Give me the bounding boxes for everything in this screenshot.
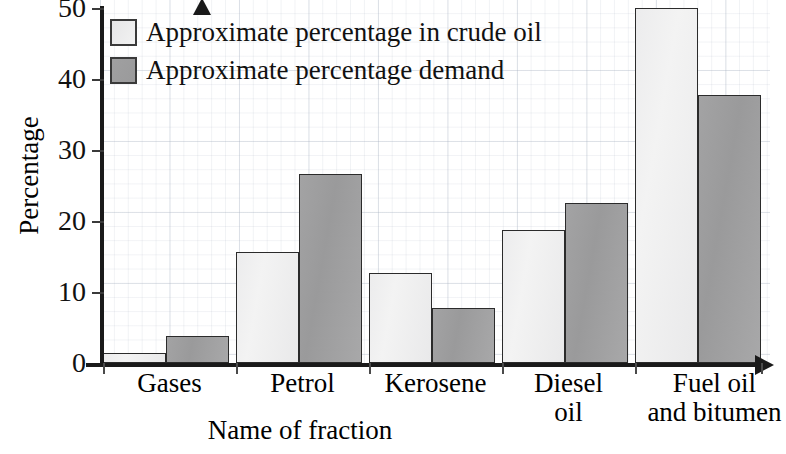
- bar-diesel-oil-crude-oil: [502, 230, 565, 363]
- bar-petrol-crude-oil: [236, 252, 299, 363]
- x-tick-label-petrol: Petrol: [230, 369, 375, 398]
- y-tick-label-40: 40: [40, 65, 86, 93]
- y-tick-30: [92, 150, 104, 152]
- legend-item-crude-oil: Approximate percentage in crude oil: [110, 16, 630, 48]
- y-tick-10: [92, 292, 104, 294]
- y-axis-line: [100, 6, 104, 365]
- bar-fuel-oil-and-bitumen-crude-oil: [635, 8, 698, 363]
- bar-kerosene-crude-oil: [369, 273, 432, 363]
- y-tick-label-10: 10: [40, 278, 86, 306]
- legend-item-demand: Approximate percentage demand: [110, 54, 630, 86]
- bar-gases-demand: [166, 336, 229, 363]
- x-axis-title: Name of fraction: [160, 415, 440, 446]
- x-tick-label-diesel-oil-line2: oil: [496, 398, 641, 427]
- x-tick-label-fuel-oil-and-bitumen-line2: and bitumen: [627, 398, 786, 427]
- x-tick-label-kerosene: Kerosene: [363, 369, 508, 398]
- y-tick-label-50: 50: [40, 0, 86, 22]
- legend-label-demand: Approximate percentage demand: [146, 57, 504, 84]
- x-tick-label-gases: Gases: [97, 369, 242, 398]
- bar-petrol-demand: [299, 174, 362, 363]
- bar-diesel-oil-demand: [565, 203, 628, 363]
- y-tick-50: [92, 8, 104, 10]
- y-axis-arrow: [193, 0, 211, 15]
- legend-swatch-crude-oil-icon: [110, 19, 137, 46]
- x-tick-label-fuel-oil-and-bitumen-line1: Fuel oil: [627, 369, 786, 398]
- bar-fuel-oil-and-bitumen-demand: [698, 95, 761, 363]
- y-tick-label-30: 30: [40, 136, 86, 164]
- y-tick-40: [92, 79, 104, 81]
- y-tick-label-0: 0: [40, 349, 86, 377]
- y-axis-title: Percentage: [14, 51, 45, 301]
- bar-kerosene-demand: [432, 308, 495, 363]
- y-tick-20: [92, 221, 104, 223]
- x-tick-label-diesel-oil-line1: Diesel: [496, 369, 641, 398]
- bar-gases-crude-oil: [103, 353, 166, 363]
- legend-label-crude-oil: Approximate percentage in crude oil: [146, 19, 542, 46]
- y-tick-label-20: 20: [40, 207, 86, 235]
- legend-swatch-demand-icon: [110, 57, 137, 84]
- x-axis-line: [86, 363, 758, 367]
- chart-legend: Approximate percentage in crude oil Appr…: [110, 16, 630, 92]
